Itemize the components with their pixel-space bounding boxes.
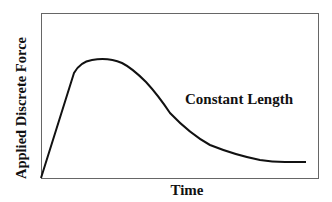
- force-curve: [41, 59, 306, 178]
- x-axis-label: Time: [170, 182, 203, 199]
- curve-annotation: Constant Length: [185, 91, 293, 108]
- y-axis-label: Applied Discrete Force: [13, 37, 30, 179]
- force-time-chart: Applied Discrete Force Time Constant Len…: [0, 0, 332, 202]
